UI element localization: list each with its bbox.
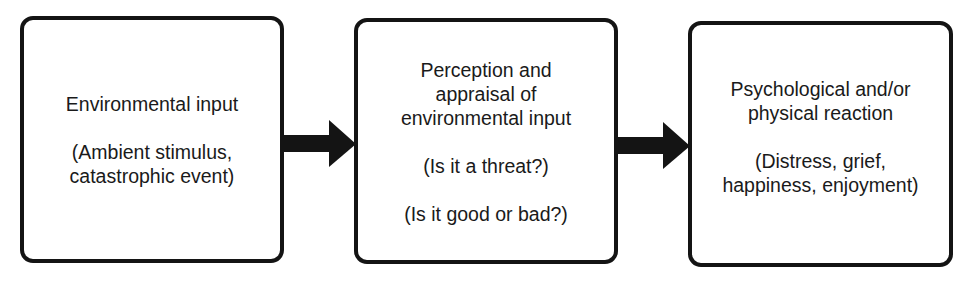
node-question: (Is it good or bad?) — [404, 202, 568, 226]
title-line: Perception and — [401, 58, 571, 82]
description-line: (Distress, grief, — [722, 149, 918, 173]
node-title: Environmental input — [66, 92, 238, 116]
description-line: catastrophic event) — [70, 164, 235, 188]
description-line: (Is it good or bad?) — [404, 202, 568, 226]
description-line: (Ambient stimulus, — [70, 140, 235, 164]
node-perception-appraisal: Perception and appraisal of environmenta… — [354, 18, 618, 264]
arrow-right-icon — [283, 120, 357, 168]
title-line: appraisal of — [401, 82, 571, 106]
node-title: Psychological and/or physical reaction — [731, 77, 911, 125]
node-reaction: Psychological and/or physical reaction (… — [688, 21, 953, 267]
node-description: (Ambient stimulus, catastrophic event) — [70, 140, 235, 188]
title-line: environmental input — [401, 106, 571, 130]
title-line: Psychological and/or — [731, 77, 911, 101]
description-line: (Is it a threat?) — [423, 154, 549, 178]
node-title: Perception and appraisal of environmenta… — [401, 58, 571, 130]
node-environmental-input: Environmental input (Ambient stimulus, c… — [20, 16, 284, 263]
title-line: physical reaction — [731, 101, 911, 125]
description-line: happiness, enjoyment) — [722, 173, 918, 197]
arrow-right-icon — [617, 122, 691, 170]
title-line: Environmental input — [66, 92, 238, 116]
node-description: (Distress, grief, happiness, enjoyment) — [722, 149, 918, 197]
node-question: (Is it a threat?) — [423, 154, 549, 178]
